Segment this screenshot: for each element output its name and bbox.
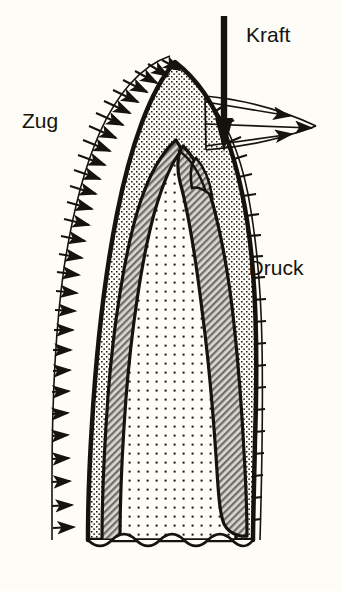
tension-arrow (52, 481, 70, 482)
tension-arrow (52, 413, 68, 414)
label-druck: Druck (249, 256, 304, 279)
label-kraft: Kraft (246, 23, 291, 46)
tension-arrow (55, 310, 75, 311)
tooth-stress-diagram: Kraft Zug Druck (0, 0, 342, 591)
tension-arrow (52, 458, 69, 459)
tension-arrow (53, 370, 70, 371)
tension-arrow (53, 527, 74, 528)
label-zug: Zug (22, 109, 58, 132)
tension-arrow (52, 391, 69, 392)
tension-arrow (52, 505, 72, 506)
tension-arrow (52, 435, 68, 436)
